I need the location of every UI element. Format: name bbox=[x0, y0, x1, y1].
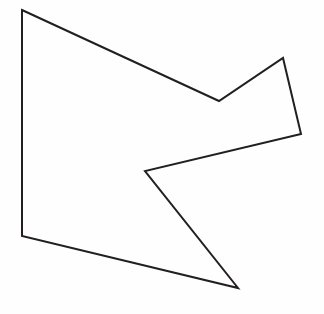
figure-canvas bbox=[0, 0, 324, 314]
polygon-diagram bbox=[0, 0, 324, 314]
concave-polygon-outline bbox=[22, 10, 301, 288]
